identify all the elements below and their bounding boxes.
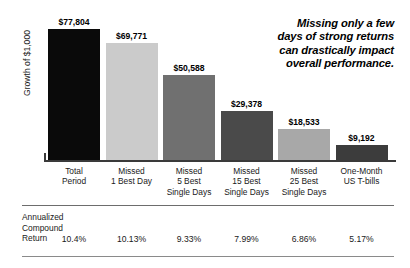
category-label-line: US T-bills: [330, 176, 394, 186]
bar-value-label: $9,192: [330, 133, 394, 143]
bar-value-label: $50,588: [157, 63, 221, 73]
category-axis-labels: TotalPeriodMissed1 Best DayMissed5 BestS…: [48, 166, 394, 200]
category-label: Missed1 Best Day: [100, 166, 164, 187]
return-value: 6.86%: [272, 234, 336, 244]
table-divider-top: [22, 205, 394, 206]
chart-figure: Missing only a few days of strong return…: [0, 0, 410, 268]
row-label-line-1: Annualized: [22, 212, 63, 223]
bar: [163, 75, 215, 160]
category-label-line: 25 Best: [272, 176, 336, 186]
category-label-line: Single Days: [157, 187, 221, 197]
table-divider-bottom: [22, 256, 394, 257]
category-label-line: 1 Best Day: [100, 176, 164, 186]
category-label-line: Single Days: [215, 187, 279, 197]
category-label: Missed25 BestSingle Days: [272, 166, 336, 197]
category-label-line: Missed: [272, 166, 336, 176]
bar-value-label: $18,533: [272, 117, 336, 127]
return-value: 7.99%: [215, 234, 279, 244]
y-axis-title: Growth of $1,000: [22, 8, 32, 118]
return-value-row: 10.4%10.13%9.33%7.99%6.86%5.17%: [48, 234, 394, 248]
category-label: TotalPeriod: [42, 166, 106, 187]
return-value: 10.4%: [42, 234, 106, 244]
category-label: Missed5 BestSingle Days: [157, 166, 221, 197]
return-value: 5.17%: [330, 234, 394, 244]
category-label-line: Total: [42, 166, 106, 176]
bar-value-label: $77,804: [42, 17, 106, 27]
y-axis-tick: [44, 153, 46, 161]
category-label-line: Single Days: [272, 187, 336, 197]
category-label-line: Period: [42, 176, 106, 186]
bar: [48, 29, 100, 160]
return-value: 9.33%: [157, 234, 221, 244]
plot-area: $77,804$69,771$50,588$29,378$18,533$9,19…: [48, 8, 394, 160]
category-label-line: Missed: [157, 166, 221, 176]
category-label-line: One-Month: [330, 166, 394, 176]
category-label: One-MonthUS T-bills: [330, 166, 394, 187]
bar: [106, 43, 158, 160]
category-label-line: Missed: [215, 166, 279, 176]
category-label-line: 15 Best: [215, 176, 279, 186]
return-value: 10.13%: [100, 234, 164, 244]
category-label: Missed15 BestSingle Days: [215, 166, 279, 197]
category-label-line: Missed: [100, 166, 164, 176]
bar: [278, 129, 330, 160]
bar: [336, 145, 388, 160]
x-axis-line: [44, 160, 396, 162]
bar-value-label: $69,771: [100, 31, 164, 41]
bar-value-label: $29,378: [215, 99, 279, 109]
row-label-line-2: Compound: [22, 223, 63, 234]
category-label-line: 5 Best: [157, 176, 221, 186]
bar: [221, 111, 273, 160]
